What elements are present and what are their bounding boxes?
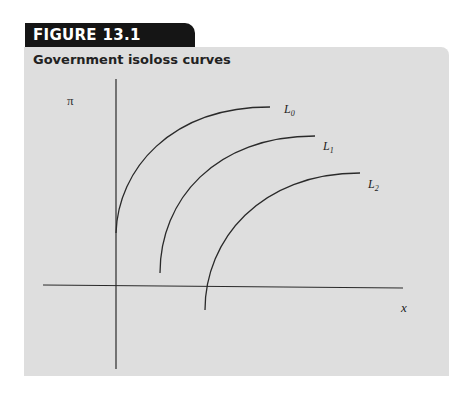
curve-label-l1: L1 bbox=[323, 139, 334, 155]
isoloss-curve-l1 bbox=[160, 136, 315, 273]
y-axis-label: π bbox=[67, 93, 74, 109]
x-axis bbox=[43, 285, 403, 288]
isoloss-diagram bbox=[0, 0, 473, 399]
curve-label-l0: L0 bbox=[284, 102, 295, 118]
x-axis-label: x bbox=[401, 300, 407, 316]
isoloss-curve-l2 bbox=[205, 173, 360, 310]
curve-label-l2: L2 bbox=[368, 177, 379, 193]
